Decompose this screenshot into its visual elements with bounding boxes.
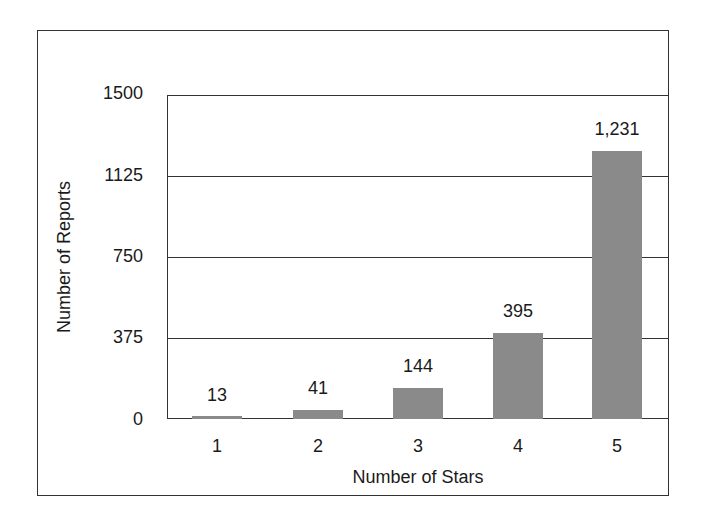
bar-4-stars — [493, 333, 543, 419]
bar-5-stars — [592, 151, 642, 419]
ytick-label: 0 — [133, 410, 143, 428]
bar-2-stars — [293, 410, 343, 419]
bar-value-label: 144 — [383, 356, 453, 377]
xtick-label: 1 — [192, 436, 242, 457]
xtick-label: 2 — [293, 436, 343, 457]
ytick-label: 1500 — [103, 84, 143, 102]
bar-1-star — [192, 416, 242, 419]
xtick-label: 3 — [393, 436, 443, 457]
bar-value-label: 1,231 — [582, 119, 652, 140]
ytick-label: 1125 — [104, 166, 143, 184]
y-axis-title: Number of Reports — [54, 181, 75, 333]
x-axis-title: Number of Stars — [167, 467, 669, 488]
bar-value-label: 395 — [483, 301, 553, 322]
xtick-label: 5 — [592, 436, 642, 457]
ytick-label: 750 — [113, 247, 143, 265]
xtick-label: 4 — [493, 436, 543, 457]
bar-value-label: 13 — [182, 385, 252, 406]
bar-3-stars — [393, 388, 443, 419]
ytick-label: 375 — [113, 328, 143, 346]
bar-value-label: 41 — [283, 378, 353, 399]
